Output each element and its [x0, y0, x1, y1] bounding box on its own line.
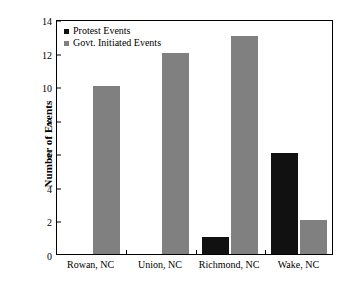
x-axis-category-label: Rowan, NC: [67, 259, 114, 270]
legend-swatch-icon: [64, 41, 69, 46]
bar-chart: Number of Events 02468101214 Protest Eve…: [0, 0, 351, 287]
bars-layer: [57, 21, 332, 254]
plot-area: 02468101214 Protest EventsGovt. Initiate…: [56, 20, 333, 255]
legend-item: Protest Events: [64, 26, 161, 36]
legend-swatch-icon: [64, 29, 69, 34]
bar: [93, 86, 120, 254]
x-axis-labels: Rowan, NCUnion, NCRichmond, NCWake, NC: [56, 259, 333, 279]
x-axis-category-label: Richmond, NC: [199, 259, 260, 270]
legend-item: Govt. Initiated Events: [64, 38, 161, 48]
y-tick-label: 10: [42, 83, 52, 94]
x-axis-category-label: Union, NC: [138, 259, 182, 270]
y-tick-label: 12: [42, 49, 52, 60]
bar: [202, 237, 229, 254]
y-tick-label: 6: [47, 150, 52, 161]
y-tick-label: 8: [47, 116, 52, 127]
y-tick-label: 0: [47, 251, 52, 262]
legend-label: Protest Events: [73, 26, 131, 36]
y-axis-title: Number of Events: [42, 54, 54, 234]
bar: [271, 153, 298, 254]
x-axis-category-label: Wake, NC: [278, 259, 319, 270]
bar: [162, 53, 189, 254]
bar: [231, 36, 258, 254]
y-tick-label: 4: [47, 183, 52, 194]
bar: [300, 220, 327, 254]
y-tick-label: 14: [42, 16, 52, 27]
chart-legend: Protest EventsGovt. Initiated Events: [64, 26, 161, 50]
y-tick-label: 2: [47, 217, 52, 228]
legend-label: Govt. Initiated Events: [73, 38, 161, 48]
